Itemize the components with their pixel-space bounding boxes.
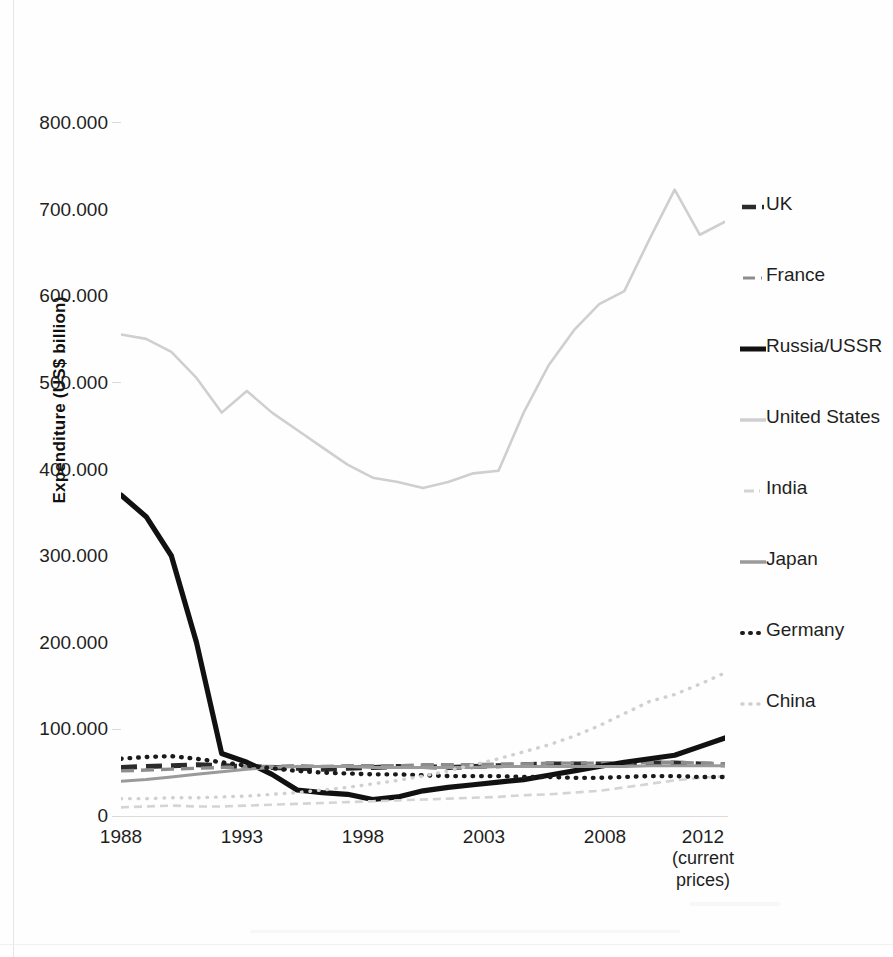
legend-swatch-germany xyxy=(740,627,766,639)
legend-label-france: France xyxy=(766,263,825,284)
chart-legend: UK France Russia/USSR United States Indi… xyxy=(740,192,893,760)
y-tick-mark xyxy=(112,382,121,383)
legend-label-uk: UK xyxy=(766,192,792,213)
scan-artifact-bottom-edge xyxy=(0,944,893,945)
x-tick-label-2012: 2012 xyxy=(682,826,724,847)
x-tick-label: 2008 xyxy=(550,826,660,848)
y-tick-label: 0 xyxy=(0,806,108,825)
x-tick-label: 1988 xyxy=(66,826,176,848)
legend-label-japan: Japan xyxy=(766,547,818,568)
legend-label-germany: Germany xyxy=(766,618,844,639)
legend-swatch-russia-ussr xyxy=(740,343,766,355)
legend-item-japan[interactable]: Japan xyxy=(740,547,893,618)
x-tick-label-last: 2012 (current prices) xyxy=(648,826,758,891)
legend-swatch-china xyxy=(740,698,766,710)
y-tick-label: 800.000 xyxy=(0,113,108,132)
legend-label-united-states: United States xyxy=(766,405,880,426)
legend-swatch-uk xyxy=(740,201,766,213)
y-tick-label: 100.000 xyxy=(0,719,108,738)
x-axis-line xyxy=(118,816,728,817)
legend-label-china: China xyxy=(766,689,816,710)
x-axis-note-line2: prices) xyxy=(648,870,758,891)
y-tick-label: 600.000 xyxy=(0,286,108,305)
legend-item-uk[interactable]: UK xyxy=(740,192,893,263)
scan-artifact-smudge xyxy=(250,930,680,933)
chart-figure: Expenditure (US$ billion) 800.000 700.00… xyxy=(0,0,893,957)
x-tick-label: 1998 xyxy=(308,826,418,848)
y-tick-label: 400.000 xyxy=(0,460,108,479)
legend-item-india[interactable]: India xyxy=(740,476,893,547)
y-tick-label: 200.000 xyxy=(0,633,108,652)
y-axis-tick-labels: 800.000 700.000 600.000 500.000 400.000 … xyxy=(0,0,108,957)
y-tick-label: 500.000 xyxy=(0,373,108,392)
x-tick-label: 1993 xyxy=(187,826,297,848)
y-tick-mark xyxy=(112,122,121,123)
y-tick-label: 700.000 xyxy=(0,200,108,219)
y-tick-mark xyxy=(112,729,121,730)
legend-swatch-france xyxy=(740,272,766,284)
series-line-china xyxy=(121,673,725,799)
legend-item-united-states[interactable]: United States xyxy=(740,405,893,476)
series-line-russia-ussr xyxy=(121,495,725,800)
legend-item-china[interactable]: China xyxy=(740,689,893,760)
legend-item-russia-ussr[interactable]: Russia/USSR xyxy=(740,334,893,405)
x-tick-label: 2003 xyxy=(429,826,539,848)
plot-area xyxy=(121,122,725,816)
legend-label-russia-ussr: Russia/USSR xyxy=(766,334,882,355)
legend-label-india: India xyxy=(766,476,807,497)
scan-artifact-smudge xyxy=(690,902,780,906)
x-axis-note-line1: (current xyxy=(648,848,758,869)
legend-swatch-india xyxy=(740,485,766,497)
y-tick-label: 300.000 xyxy=(0,546,108,565)
legend-item-germany[interactable]: Germany xyxy=(740,618,893,689)
legend-swatch-united-states xyxy=(740,414,766,426)
legend-swatch-japan xyxy=(740,556,766,568)
legend-item-france[interactable]: France xyxy=(740,263,893,334)
series-line-united-states xyxy=(121,190,725,488)
series-canvas xyxy=(121,122,725,816)
